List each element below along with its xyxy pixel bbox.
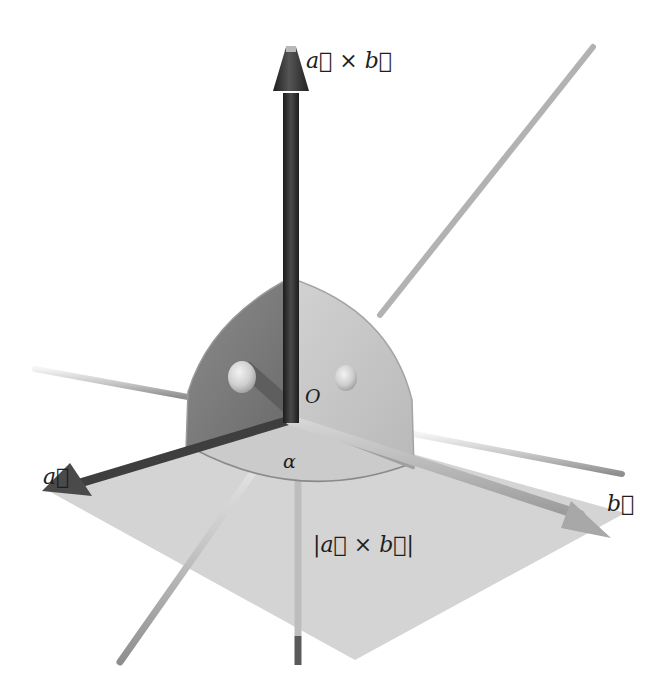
axis-rod-diagonal-upper	[380, 47, 593, 315]
area-label: |a⃗ × b⃗|	[313, 534, 414, 556]
cross-product-diagram	[0, 0, 660, 700]
axis-rod-left	[35, 369, 188, 397]
vector-a-label: a⃗	[43, 466, 69, 488]
vector-b-label: b⃗	[607, 493, 634, 515]
origin-label: O	[305, 387, 321, 406]
angle-label: α	[283, 452, 296, 471]
cross-product-label: a⃗ × b⃗	[306, 50, 392, 72]
cross-product-tip	[286, 46, 296, 52]
cross-product-arrowhead	[273, 47, 309, 91]
disc-bump-right	[335, 365, 357, 391]
